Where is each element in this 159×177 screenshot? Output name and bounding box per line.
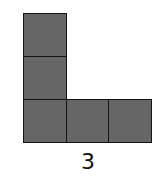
square-cell-bottom-center: [66, 99, 110, 143]
square-cell-middle: [23, 56, 67, 100]
l-shape-figure: 3: [0, 0, 159, 177]
square-cell-top: [23, 13, 67, 57]
square-cell-bottom-right: [108, 99, 152, 143]
square-cell-bottom-left: [23, 99, 67, 143]
figure-label: 3: [68, 149, 108, 175]
